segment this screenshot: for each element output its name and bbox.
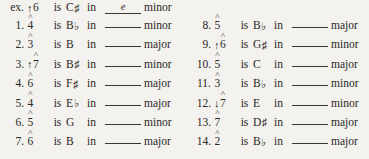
in-label: in — [87, 116, 104, 128]
example-is-label: is — [49, 1, 66, 13]
is-label: is — [49, 38, 66, 50]
caret-icon: ^ — [28, 32, 32, 41]
mode-quality: major — [144, 135, 171, 147]
sharp-icon: ♯ — [74, 58, 80, 70]
is-label: is — [49, 19, 66, 31]
scale-degree: ^6 — [27, 135, 49, 147]
in-label: in — [87, 135, 104, 147]
is-label: is — [49, 116, 66, 128]
is-label: is — [49, 97, 66, 109]
exercise-number: 7. — [4, 135, 24, 147]
scale-degree: ^4 — [27, 19, 49, 31]
exercise-number: 13. — [188, 116, 211, 128]
is-label: is — [236, 97, 253, 109]
answer-blank[interactable] — [105, 105, 141, 106]
note-letter: B — [66, 38, 74, 50]
note-letter: G — [66, 116, 74, 128]
note-letter: B — [253, 77, 261, 89]
note-name: E♭ — [66, 97, 87, 110]
in-label: in — [87, 38, 104, 50]
answer-blank[interactable] — [292, 66, 328, 67]
note-name: C — [253, 58, 274, 70]
degree-numeral: ^3 — [28, 38, 34, 50]
mode-quality: major — [144, 38, 171, 50]
note-letter: E — [66, 97, 73, 109]
scale-degree: ↑^7 — [27, 58, 49, 70]
mode-quality: minor — [331, 38, 358, 50]
note-letter: B — [253, 135, 261, 147]
exercise-number: 8. — [188, 19, 211, 31]
in-label: in — [274, 77, 291, 89]
exercise-row: 9.↑^6isG♯inminor — [188, 38, 358, 57]
exercise-number: 11. — [188, 77, 211, 89]
answer-blank[interactable] — [105, 46, 141, 47]
mode-quality: minor — [331, 97, 358, 109]
exercise-column-right: 8.^5isB♭inmajor9.↑^6isG♯inminor10.^5isCi… — [188, 19, 358, 155]
scale-degree: ^4 — [27, 97, 49, 109]
is-label: is — [236, 19, 253, 31]
answer-blank[interactable] — [105, 66, 141, 67]
caret-icon: ^ — [215, 109, 219, 118]
in-label: in — [87, 19, 104, 31]
note-name: B♯ — [66, 58, 87, 70]
answer-blank[interactable] — [292, 124, 328, 125]
caret-icon: ^ — [215, 71, 219, 80]
scale-degree: ^3 — [214, 77, 236, 89]
mode-quality: major — [331, 116, 358, 128]
caret-icon: ^ — [28, 13, 32, 22]
is-label: is — [236, 116, 253, 128]
in-label: in — [274, 116, 291, 128]
scale-degree: ^5 — [214, 19, 236, 31]
degree-numeral: ^5 — [215, 58, 221, 70]
note-name: G♯ — [253, 38, 274, 50]
exercise-number: 12. — [188, 97, 211, 109]
answer-blank[interactable] — [292, 46, 328, 47]
exercise-number: 3. — [4, 58, 24, 70]
scale-degree: ^6 — [27, 77, 49, 89]
example-note: C♯ — [66, 1, 87, 13]
example-answer-blank[interactable]: e — [105, 2, 141, 14]
degree-numeral: ^6 — [28, 135, 34, 147]
exercise-column-left: 1.^4isB♭inminor2.^3isBinmajor3.↑^7isB♯in… — [4, 19, 171, 155]
note-letter: B — [66, 19, 74, 31]
mode-quality: major — [331, 19, 358, 31]
is-label: is — [49, 58, 66, 70]
note-name: B — [66, 38, 87, 50]
caret-icon: ^ — [215, 13, 219, 22]
scale-degree: ↑^6 — [214, 38, 236, 50]
in-label: in — [274, 38, 291, 50]
in-label: in — [274, 19, 291, 31]
example-label: ex. — [4, 1, 24, 13]
caret-icon: ^ — [215, 129, 219, 138]
degree-numeral: ^4 — [28, 19, 34, 31]
answer-blank[interactable] — [292, 27, 328, 28]
answer-blank[interactable] — [292, 85, 328, 86]
is-label: is — [236, 135, 253, 147]
answer-blank[interactable] — [292, 143, 328, 144]
scale-degree: ^3 — [27, 38, 49, 50]
answer-blank[interactable] — [292, 105, 328, 106]
note-letter: C — [253, 58, 261, 70]
degree-numeral: ^7 — [220, 97, 226, 109]
is-label: is — [49, 77, 66, 89]
answer-blank[interactable] — [105, 143, 141, 144]
is-label: is — [236, 77, 253, 89]
note-letter: F — [66, 77, 72, 89]
mode-quality: minor — [144, 58, 171, 70]
scale-degree: ^5 — [214, 58, 236, 70]
caret-icon: ^ — [28, 109, 32, 118]
note-name: B — [66, 135, 87, 147]
flat-icon: ♭ — [261, 78, 266, 90]
exercise-number: 2. — [4, 38, 24, 50]
note-letter: B — [66, 58, 74, 70]
degree-numeral: ^5 — [28, 116, 34, 128]
scale-degree: ↓^7 — [214, 97, 236, 109]
exercise-number: 10. — [188, 58, 211, 70]
up-arrow-icon: ↑ — [214, 40, 220, 51]
exercise-row: 2.^3isBinmajor — [4, 38, 171, 57]
answer-blank[interactable] — [105, 85, 141, 86]
caret-icon: ^ — [28, 71, 32, 80]
example-note-letter: C — [66, 1, 74, 13]
answer-blank[interactable] — [105, 124, 141, 125]
answer-blank[interactable] — [105, 27, 141, 28]
